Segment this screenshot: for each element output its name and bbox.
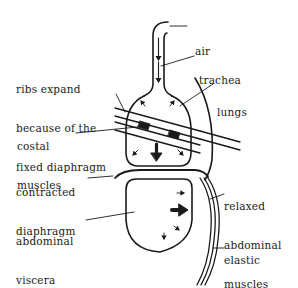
label-lungs-text: lungs	[217, 106, 247, 119]
label-relaxed-line-1: relaxed	[224, 200, 282, 213]
label-diaphragm-line-1: contracted	[16, 186, 76, 199]
diagram-canvas: air trachea lungs ribs expand because of…	[0, 0, 298, 288]
label-viscera-line-1: abdominal	[16, 235, 74, 248]
label-ribs-line-1: ribs expand	[16, 83, 106, 96]
abdominal-viscera-shape	[126, 179, 192, 252]
viscera-push-arrow	[172, 204, 188, 216]
label-elastic-abdominal-walls: elastic abdominal walls	[224, 228, 282, 288]
label-costal-line-1: costal	[17, 140, 61, 153]
label-elastic-line-1: elastic	[224, 254, 282, 267]
label-abdominal-viscera: abdominal viscera	[16, 209, 74, 288]
diaphragm-shape	[115, 170, 208, 178]
abdominal-walls	[197, 178, 219, 285]
label-viscera-line-2: viscera	[16, 274, 74, 287]
diaphragm-down-arrow	[151, 144, 162, 161]
label-lungs: lungs	[217, 80, 247, 145]
viscera-arrows	[164, 193, 184, 239]
